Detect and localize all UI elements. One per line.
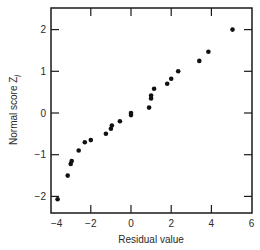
data-point	[152, 87, 157, 92]
y-tick-label: −1	[35, 149, 47, 160]
data-points	[55, 27, 235, 201]
plot-frame	[51, 8, 252, 213]
y-axis-label-text: Normal score Z	[8, 77, 19, 145]
data-point	[176, 69, 181, 74]
x-tick-label: −4	[51, 218, 63, 229]
x-tick-label: 2	[168, 218, 174, 229]
y-tick-label: −2	[35, 191, 47, 202]
data-point	[76, 148, 81, 153]
data-point	[55, 197, 60, 202]
y-axis-label: Normal score Zj	[8, 75, 21, 145]
x-tick-label: −2	[85, 218, 97, 229]
data-point	[104, 132, 109, 137]
data-point	[197, 59, 202, 64]
x-tick-label: 0	[128, 218, 134, 229]
y-tick-label: 1	[40, 66, 46, 77]
data-point	[230, 27, 235, 32]
data-point	[169, 77, 174, 82]
data-point	[147, 105, 152, 110]
x-axis-ticks: −4−20246	[51, 8, 255, 229]
x-tick-label: 6	[249, 218, 255, 229]
data-point	[118, 119, 123, 124]
data-point	[89, 138, 94, 143]
y-axis-label-subscript: j	[13, 75, 21, 78]
y-tick-label: 0	[40, 108, 46, 119]
data-point	[69, 159, 74, 164]
data-point	[83, 140, 88, 145]
x-tick-label: 4	[209, 218, 215, 229]
data-point	[206, 49, 211, 54]
normal-probability-plot: −4−20246 −2−1012 Residual value Normal s…	[0, 0, 260, 250]
y-tick-label: 2	[40, 24, 46, 35]
data-point	[165, 82, 170, 87]
data-point	[65, 173, 70, 178]
data-point	[129, 111, 134, 116]
x-axis-label: Residual value	[118, 234, 184, 245]
data-point	[149, 93, 154, 98]
data-point	[110, 123, 115, 128]
